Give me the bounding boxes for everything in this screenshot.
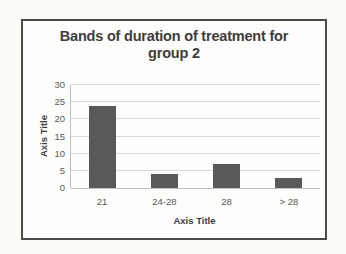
bar-28 (213, 164, 240, 188)
gridline-y-0 (71, 188, 320, 189)
x-tick-label: 21 (71, 197, 133, 207)
y-tick-label: 5 (41, 166, 65, 176)
bar-21 (89, 106, 116, 188)
x-tick-label: 28 (196, 197, 258, 207)
y-axis-title: Axis Title (38, 115, 49, 157)
scanned-chart-page: Bands of duration of treatment for group… (0, 0, 346, 254)
plot-area: 0510152025302124-2828> 28 (70, 85, 320, 188)
gridline-y-30 (71, 84, 320, 85)
x-tick-label: 24-28 (133, 197, 195, 207)
x-axis-title: Axis Title (70, 215, 319, 226)
gridline-y-25 (71, 101, 320, 102)
chart-title: Bands of duration of treatment for group… (23, 28, 325, 62)
chart-frame: Bands of duration of treatment for group… (21, 19, 327, 240)
y-tick-label: 25 (41, 97, 65, 107)
y-tick-label: 0 (41, 183, 65, 193)
bar-> 28 (275, 178, 302, 188)
x-tick-label: > 28 (258, 197, 320, 207)
y-tick-label: 30 (41, 80, 65, 90)
chart-title-text: Bands of duration of treatment for group… (57, 28, 292, 62)
bar-24-28 (151, 174, 178, 188)
